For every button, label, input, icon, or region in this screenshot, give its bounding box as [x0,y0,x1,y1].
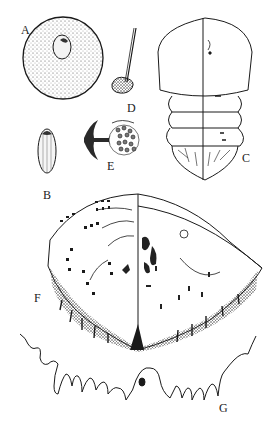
panel-d-stylet [112,28,136,93]
panel-label-g: G [219,402,228,414]
panel-label-e: E [107,160,114,172]
illustration [0,0,271,433]
panel-c-body [158,18,252,180]
panel-label-f: F [34,292,41,304]
panel-e-pore-plate [84,120,139,160]
panel-a-egg [23,17,103,99]
panel-label-d: D [127,102,136,114]
panel-b-oval [38,129,56,173]
figure-canvas: A D C E B F G [0,0,271,433]
panel-label-b: B [43,189,51,201]
panel-f-pygidium [48,194,262,352]
panel-label-c: C [242,152,250,164]
panel-label-a: A [21,24,30,36]
